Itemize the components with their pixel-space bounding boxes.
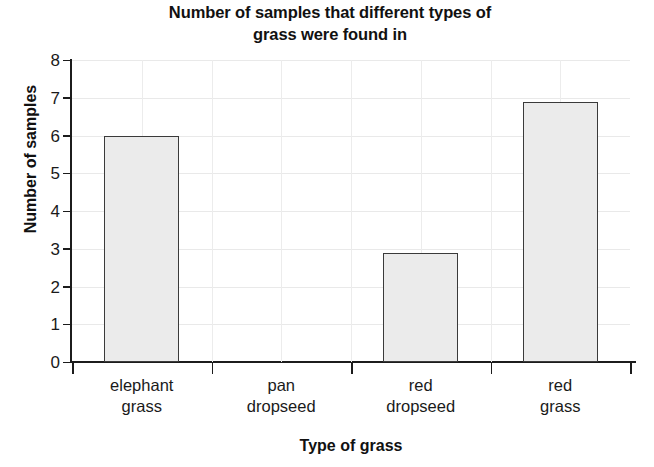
- y-axis-tick: [63, 324, 71, 326]
- x-axis-category-label: pan dropseed: [212, 375, 352, 417]
- gridline-vertical: [212, 60, 213, 362]
- bar: [383, 253, 458, 362]
- y-axis-tick-label: 2: [34, 279, 60, 296]
- y-axis-tick: [63, 286, 71, 288]
- bar: [523, 102, 598, 362]
- x-axis-category-label: elephant grass: [72, 375, 212, 417]
- x-axis-tick: [351, 363, 353, 374]
- bar-chart: Number of samples that different types o…: [0, 0, 654, 467]
- plot-area: [72, 60, 630, 362]
- y-axis-tick: [63, 173, 71, 175]
- x-axis-tick: [212, 363, 214, 374]
- y-axis-tick-label: 0: [34, 354, 60, 371]
- y-axis-tick: [63, 362, 71, 364]
- x-axis-category-label: red dropseed: [351, 375, 491, 417]
- y-axis-tick: [63, 248, 71, 250]
- bar: [104, 136, 179, 363]
- y-axis-tick: [63, 60, 71, 62]
- x-axis-title: Type of grass: [72, 437, 630, 455]
- y-axis-tick: [63, 211, 71, 213]
- y-axis-tick-label: 1: [34, 316, 60, 333]
- gridline-vertical: [281, 60, 282, 362]
- chart-title: Number of samples that different types o…: [70, 2, 590, 46]
- y-axis-tick: [63, 135, 71, 137]
- y-axis-tick-labels: 876543210: [8, 0, 60, 467]
- y-axis-tick-label: 8: [34, 52, 60, 69]
- y-axis-tick-label: 7: [34, 90, 60, 107]
- y-axis-tick-label: 5: [34, 165, 60, 182]
- y-axis-tick: [63, 97, 71, 99]
- gridline-vertical: [491, 60, 492, 362]
- x-axis-tick: [72, 363, 74, 374]
- gridline-vertical: [351, 60, 352, 362]
- x-axis-category-label: red grass: [491, 375, 631, 417]
- x-axis-tick: [491, 363, 493, 374]
- y-axis-tick-label: 6: [34, 128, 60, 145]
- y-axis-tick-label: 3: [34, 241, 60, 258]
- y-axis-tick-label: 4: [34, 203, 60, 220]
- x-axis-tick: [630, 363, 632, 374]
